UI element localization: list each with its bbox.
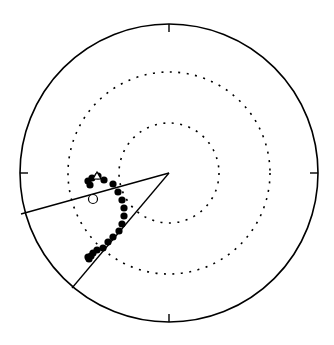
filled-point xyxy=(115,227,122,234)
filled-point xyxy=(114,188,121,195)
filled-point xyxy=(86,181,93,188)
filled-point xyxy=(118,196,125,203)
stereonet-chart xyxy=(0,0,334,345)
filled-point xyxy=(104,238,111,245)
filled-point xyxy=(100,176,107,183)
filled-point xyxy=(120,212,127,219)
great-circle-lines xyxy=(21,173,169,288)
open-point xyxy=(89,195,98,204)
filled-point xyxy=(109,180,116,187)
filled-point xyxy=(84,253,91,260)
filled-point xyxy=(118,220,125,227)
filled-point xyxy=(120,204,127,211)
stereonet-plot xyxy=(0,0,334,345)
